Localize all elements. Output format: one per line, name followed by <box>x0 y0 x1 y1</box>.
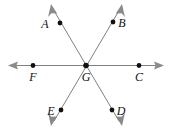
point-dot-f <box>31 63 36 68</box>
point-dot-d <box>110 108 115 113</box>
point-label-c: C <box>135 70 144 84</box>
point-dot-c <box>137 63 142 68</box>
point-label-b: B <box>118 16 126 30</box>
point-label-d: D <box>116 104 126 118</box>
point-dot-a <box>58 21 63 26</box>
geometry-diagram: A B C D E F G <box>0 0 172 129</box>
point-dot-b <box>111 20 116 25</box>
point-label-a: A <box>40 17 49 31</box>
geometry-canvas: A B C D E F G <box>0 0 172 129</box>
arrowhead-b-icon <box>116 4 125 17</box>
point-dot-e <box>59 108 64 113</box>
point-label-e: E <box>46 104 55 118</box>
arrowhead-a-icon <box>48 4 57 17</box>
point-label-g: G <box>82 70 91 84</box>
point-dot-g <box>83 63 89 69</box>
point-label-f: F <box>28 70 37 84</box>
